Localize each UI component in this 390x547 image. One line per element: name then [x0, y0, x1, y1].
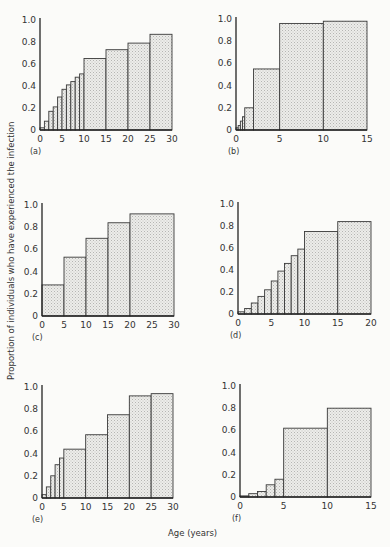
y-tick-label: 0 [226, 125, 232, 135]
panel-label: (c) [32, 333, 43, 342]
histogram-bar [291, 256, 298, 314]
y-axis-label: Proportion of individuals who have exper… [6, 122, 16, 380]
histogram-bar [86, 238, 108, 316]
chart-panel-c: 00.20.40.60.81.0051015202530(c) [24, 200, 180, 342]
x-tick-label: 10 [322, 501, 334, 511]
chart-panel-b: 00.20.40.60.81.0051015(b) [218, 14, 373, 156]
y-tick-label: 0 [230, 492, 236, 502]
histogram-bar [108, 223, 130, 316]
histogram-bar [129, 396, 151, 498]
histogram-bar [66, 85, 70, 130]
histogram-bar [284, 428, 328, 497]
histogram-bar [245, 309, 252, 315]
histogram-bar [280, 23, 324, 130]
histogram-bar [53, 107, 57, 130]
y-tick-label: 1.0 [24, 200, 39, 210]
chart-panel-e: 00.20.40.60.81.0051015202530(e) [24, 382, 179, 524]
x-tick-label: 20 [365, 318, 377, 328]
x-tick-label: 15 [361, 134, 372, 144]
histogram-bar [64, 449, 86, 498]
panel-label: (f) [232, 514, 241, 523]
x-tick-label: 20 [124, 320, 136, 330]
y-tick-label: 0 [32, 493, 38, 503]
x-tick-label: 5 [277, 134, 283, 144]
histogram-bar [298, 249, 305, 314]
histogram-bar [62, 89, 66, 130]
x-axis-label: Age (years) [168, 528, 217, 538]
x-tick-label: 15 [100, 134, 111, 144]
y-tick-label: 0.2 [222, 470, 236, 480]
histogram-bar [86, 435, 108, 498]
histogram-bar [71, 82, 75, 130]
histogram-bar [64, 257, 86, 316]
x-tick-label: 0 [235, 318, 241, 328]
histogram-bar [266, 485, 275, 497]
y-tick-label: 0.2 [24, 289, 38, 299]
histogram-bar [42, 285, 64, 316]
y-tick-label: 1.0 [220, 199, 235, 209]
histogram-bar [51, 476, 55, 498]
x-tick-label: 10 [299, 318, 311, 328]
x-tick-label: 10 [80, 502, 92, 512]
histogram-bar [257, 491, 266, 497]
figure-canvas: 00.20.40.60.81.0051015202530(a)00.20.40.… [0, 0, 390, 547]
x-tick-label: 0 [37, 134, 43, 144]
y-tick-label: 0.6 [218, 58, 233, 68]
y-tick-label: 0.8 [218, 36, 233, 46]
y-tick-label: 0.4 [222, 448, 237, 458]
histogram-bar [49, 111, 53, 130]
x-tick-label: 15 [332, 318, 343, 328]
histogram-bar [150, 34, 172, 130]
histogram-bar [265, 290, 272, 314]
panel-label: (a) [30, 147, 41, 156]
y-tick-label: 1.0 [218, 14, 233, 24]
histogram-bar [305, 232, 338, 315]
histogram-bar [106, 50, 128, 130]
y-tick-label: 0.8 [24, 222, 39, 232]
histogram-bar [245, 108, 254, 130]
x-tick-label: 10 [78, 134, 90, 144]
y-tick-label: 0.4 [24, 267, 39, 277]
x-tick-label: 0 [233, 134, 239, 144]
x-tick-label: 30 [167, 502, 179, 512]
x-tick-label: 25 [146, 320, 157, 330]
x-tick-label: 25 [144, 134, 155, 144]
panel-label: (b) [228, 147, 239, 156]
panel-label: (e) [32, 515, 43, 524]
x-tick-label: 30 [166, 134, 178, 144]
y-tick-label: 0.8 [22, 37, 37, 47]
histogram-bar [278, 271, 285, 314]
y-tick-label: 1.0 [222, 381, 237, 391]
histogram-bar [338, 222, 371, 314]
histogram-bar [58, 97, 62, 130]
x-tick-label: 15 [102, 502, 113, 512]
panel-label: (d) [230, 331, 241, 340]
y-tick-label: 0.2 [218, 103, 232, 113]
histogram-bar [75, 77, 79, 130]
x-tick-label: 0 [237, 501, 243, 511]
histogram-bar [80, 74, 84, 130]
x-tick-label: 5 [59, 134, 65, 144]
x-tick-label: 25 [145, 502, 156, 512]
x-tick-label: 0 [39, 320, 45, 330]
x-tick-label: 30 [168, 320, 180, 330]
histogram-bar [108, 415, 130, 498]
x-tick-label: 15 [102, 320, 113, 330]
x-tick-label: 20 [124, 502, 136, 512]
chart-panel-f: 00.20.40.60.81.0051015(f) [222, 381, 377, 523]
y-tick-label: 0.8 [222, 403, 237, 413]
histogram-bar [285, 263, 292, 314]
y-tick-label: 0.8 [220, 221, 235, 231]
histogram-bar [258, 296, 265, 314]
x-tick-label: 15 [365, 501, 376, 511]
histogram-bar [253, 69, 279, 130]
y-tick-label: 0.2 [24, 471, 38, 481]
y-tick-label: 0.4 [218, 81, 233, 91]
histogram-bar [84, 59, 106, 131]
y-tick-label: 0 [228, 309, 234, 319]
y-tick-label: 0 [30, 125, 36, 135]
x-tick-label: 5 [281, 501, 287, 511]
y-tick-label: 0 [32, 311, 38, 321]
chart-panel-a: 00.20.40.60.81.0051015202530(a) [22, 15, 178, 156]
y-tick-label: 1.0 [24, 382, 39, 392]
